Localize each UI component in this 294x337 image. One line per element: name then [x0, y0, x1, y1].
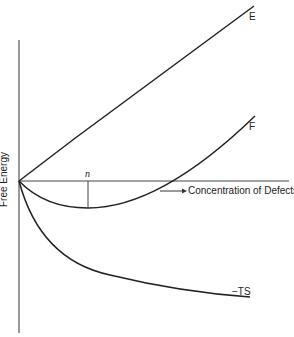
curve-minus-ts [19, 181, 250, 297]
curve-e-label: E [249, 11, 256, 22]
arrow-head-icon [182, 189, 187, 194]
x-axis-label: Concentration of Defects [188, 185, 294, 196]
curve-minus-ts-label: −TS [232, 286, 251, 297]
y-axis-label: Free Energy [0, 152, 9, 207]
curve-f-label: F [249, 121, 255, 132]
curve-e [19, 6, 254, 181]
minimum-marker-label: n [85, 168, 90, 179]
